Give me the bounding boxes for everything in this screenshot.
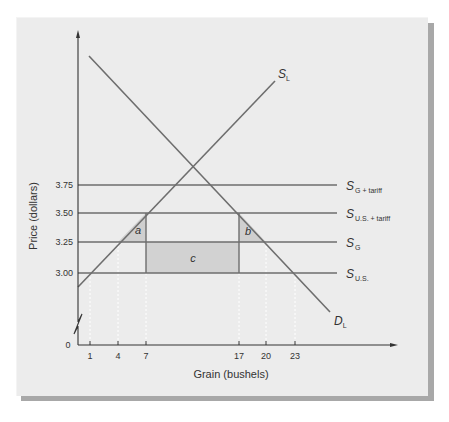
y-axis-arrow-icon [76,30,80,38]
area-label-c: c [190,252,196,264]
y-tick-3-75: 3.75 [55,180,73,190]
x-axis-arrow-icon [390,343,398,347]
x-ticks [90,341,295,345]
area-a [118,213,146,242]
x-tick-4: 4 [115,351,120,361]
x-tick-23: 23 [290,351,300,361]
label-d-l: DL [334,314,347,329]
label-s-us: SU.S. [346,267,369,282]
x-tick-7: 7 [143,351,148,361]
label-s-g: SG [346,236,360,251]
label-s-us-tariff: SU.S. + tariff [346,207,390,222]
origin-label: 0 [65,340,70,350]
label-s-l: SL [278,67,290,82]
x-tick-1: 1 [87,351,92,361]
y-axis-title: Price (dollars) [27,182,39,250]
chart-svg: 1 4 7 17 20 23 0 3.75 3.50 3.25 3.00 Gra… [0,0,449,422]
area-label-b: b [245,225,251,237]
label-s-g-tariff: SG + tariff [346,179,382,194]
area-b [239,213,266,242]
x-axis-title: Grain (bushels) [193,368,268,380]
axis-break-icon [74,314,82,345]
y-tick-3-50: 3.50 [55,208,73,218]
y-tick-3-00: 3.00 [55,268,73,278]
x-tick-20: 20 [261,351,271,361]
y-tick-3-25: 3.25 [55,237,73,247]
area-label-a: a [135,224,141,236]
x-tick-17: 17 [234,351,244,361]
